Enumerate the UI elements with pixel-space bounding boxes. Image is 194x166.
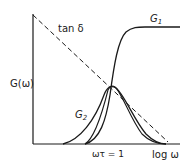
- x-axis-label: log ω: [152, 150, 179, 160]
- g2-label-sub: 2: [83, 114, 87, 122]
- g1-label: G1: [150, 14, 162, 26]
- g1-label-sub: 1: [158, 18, 162, 26]
- tan-delta-curve: [33, 15, 168, 142]
- g1-label-main: G: [150, 13, 158, 24]
- g2-label: G2: [75, 110, 87, 122]
- resonance-marker-label: ωτ = 1: [92, 150, 124, 159]
- g1-curve: [85, 27, 180, 144]
- y-axis-label: G(ω): [10, 79, 34, 89]
- tan-delta-label: tan δ: [58, 24, 84, 34]
- g2-label-main: G: [75, 109, 83, 120]
- relaxation-diagram: G(ω) log ω ωτ = 1 tan δ G1 G2: [0, 0, 194, 166]
